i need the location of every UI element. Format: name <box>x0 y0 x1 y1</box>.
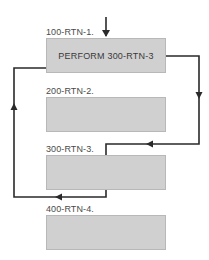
routine-label-200: 200-RTN-2. <box>46 86 94 96</box>
routine-box-100: PERFORM 300-RTN-3 <box>46 38 166 73</box>
routine-box-200 <box>46 97 166 132</box>
arrowhead-down-icon <box>196 92 203 99</box>
routine-box-400 <box>46 215 166 250</box>
routine-label-300: 300-RTN-3. <box>46 144 94 154</box>
arrowhead-left-icon <box>146 141 153 148</box>
routine-label-400: 400-RTN-4. <box>46 204 94 214</box>
routine-label-100: 100-RTN-1. <box>46 27 94 37</box>
arrowhead-left-icon <box>55 194 62 201</box>
routine-content-100: PERFORM 300-RTN-3 <box>58 51 153 61</box>
arrowhead-up-icon <box>11 103 18 110</box>
routine-box-300 <box>46 155 166 190</box>
